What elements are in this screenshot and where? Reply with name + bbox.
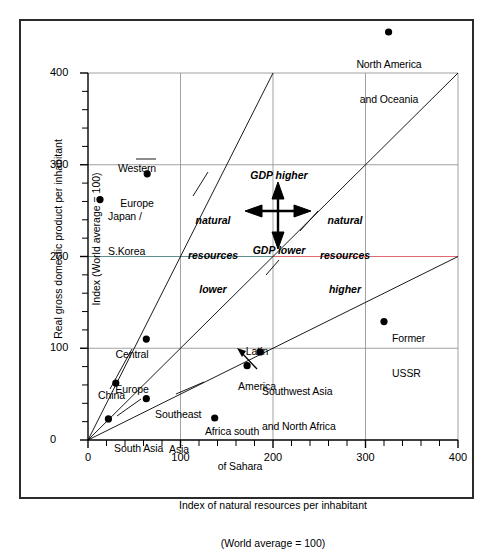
label-line1: Western — [104, 163, 170, 175]
label-line1: China — [98, 390, 146, 402]
label-line1: Former — [392, 333, 452, 345]
label-line1: North America — [338, 59, 440, 71]
label-line2: of Sahara — [192, 461, 272, 473]
annotation-arrow-cross — [245, 182, 311, 249]
y-axis-title-line1: Real gross domestic product per inhabita… — [52, 74, 65, 404]
label-line1: Central — [99, 349, 165, 361]
point-label-former-ussr: Former USSR — [392, 310, 452, 402]
annotation-natural-resources-lower: natural resources lower — [182, 192, 244, 319]
label-line1: Japan / — [108, 211, 174, 223]
annotation-natural-resources-higher: natural resources higher — [313, 192, 377, 319]
annotation-line2: resources — [313, 250, 377, 262]
label-line2: and Oceania — [338, 94, 440, 106]
x-axis-title: Index of natural resources per inhabitan… — [133, 474, 413, 553]
arrow-head-up — [272, 182, 284, 199]
x-axis-title-line1: Index of natural resources per inhabitan… — [133, 499, 413, 512]
x-axis-title-line2: (World average = 100) — [133, 537, 413, 550]
label-line2: S.Korea — [108, 246, 174, 258]
label-line1: Southwest Asia — [262, 386, 372, 398]
point-label-china: China — [98, 367, 146, 425]
annotation-line3: higher — [313, 284, 377, 296]
label-line1: Africa south — [192, 426, 272, 438]
annotation-gdp-higher: GDP higher — [236, 170, 322, 182]
x-tick-label-0: 0 — [73, 451, 103, 463]
data-point-north-america-and-oceania[interactable] — [385, 28, 392, 35]
point-label-japan-s-korea: Japan / S.Korea — [108, 188, 174, 280]
annotation-line3: lower — [182, 284, 244, 296]
point-label-north-america-and-oceania: North America and Oceania — [338, 36, 440, 128]
annotation-line1: natural — [313, 215, 377, 227]
arrow-head-left — [245, 205, 262, 217]
label-line2: and North Africa — [262, 421, 372, 433]
label-line1: South Asia — [114, 443, 184, 455]
x-tick-label-400: 400 — [443, 451, 473, 463]
label-line2: USSR — [392, 368, 452, 380]
annotation-gdp-lower: GDP lower — [236, 245, 322, 257]
point-label-southwest-asia-and-north-africa: Southwest Asia and North Africa — [262, 363, 372, 455]
point-label-south-asia: South Asia — [114, 420, 184, 478]
arrow-head-right — [294, 205, 311, 217]
data-point-former-ussr[interactable] — [380, 318, 387, 325]
leader-line-gdp-lower — [266, 260, 279, 275]
label-line1: Latin — [224, 346, 290, 358]
point-label-africa-south-of-sahara: Africa south of Sahara — [192, 403, 272, 495]
annotation-line1: natural — [182, 215, 244, 227]
annotation-line2: resources — [182, 250, 244, 262]
y-tick-label-0: 0 — [50, 433, 76, 445]
